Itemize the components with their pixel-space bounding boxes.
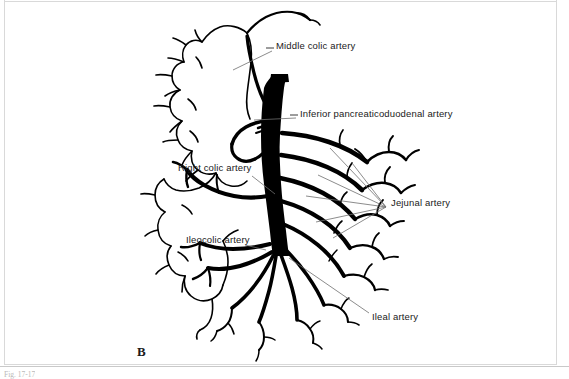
superior-mesenteric-artery-diagram [0,0,569,379]
label-jejunal-artery: Jejunal artery [391,198,450,208]
middle-colic-artery-vessel [247,12,320,117]
large-intestine-outline [141,26,251,339]
panel-letter-b: B [137,344,146,360]
label-ileal-artery: Ileal artery [372,312,418,322]
label-right-colic-artery: Right colic artery [178,163,251,173]
leader-lines [233,51,386,313]
label-inferior-pancreaticoduodenal-artery: Inferior pancreaticoduodenal artery [300,109,453,119]
label-middle-colic-artery: Middle colic artery [276,41,355,51]
ileal-arterial-arcades [193,248,359,361]
superior-mesenteric-artery-trunk [261,74,289,256]
anatomy-figure-panel: Middle colic artery Inferior pancreatico… [0,0,569,379]
figure-caption: Fig. 17-17 [4,370,35,379]
label-ileocolic-artery: Ileocolic artery [186,235,250,245]
